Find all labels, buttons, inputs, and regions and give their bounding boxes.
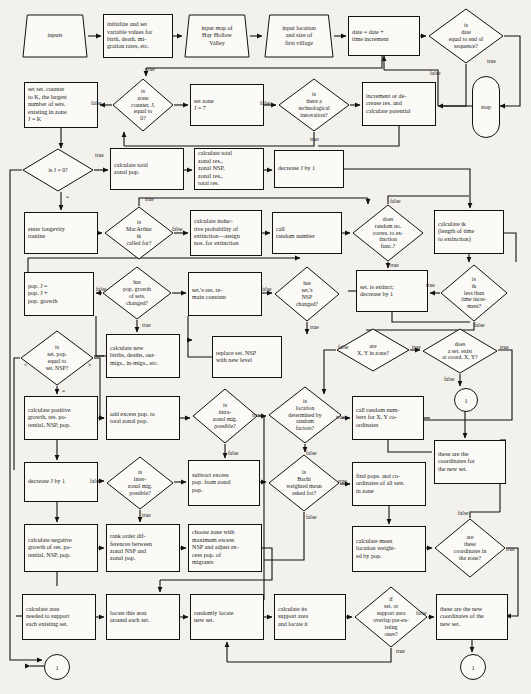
node-calculate-mean-location: calculate mean location weight- ed by po… [352,526,426,572]
node-add-excess-pop: add excess pop. to total zonal pop. [106,396,180,440]
node-initialize-variables-label: initialize and set variable values for b… [104,21,172,51]
node-inductive-probability-extinction: calculate induc- tive probability of ext… [190,210,262,256]
edge-label-true-location-random: true [336,414,345,420]
node-calculate-area-needed-label: calculate area needed to support each ex… [23,606,95,628]
node-input-map: input map of Hay Hollow Valley [184,14,250,58]
decision-location-random-factors-label: is location determined by random factors… [288,398,321,433]
node-add-excess-pop-label: add excess pop. to total zonal pop. [107,411,179,426]
node-stop: stop [472,76,500,138]
node-call-random-numbers-xy-label: call random num- bers for X, Y co- ordin… [353,407,423,429]
decision-zone-counter-zero-label: is zone counter, J, equal to 0? [131,88,155,123]
decision-overlap-pre-existing-label: if set. or support area overlap pre-ex- … [373,596,409,637]
node-pop-growth-sum-label: pop. J = pop. J + pop. growth [25,283,93,305]
connector-1-bottom-left-label: 1 [55,664,58,671]
node-calculate-total-zonal-pop: calculate total zonal pop. [110,148,184,190]
node-input-map-label: input map of Hay Hollow Valley [201,25,232,47]
node-find-pops-coordinates-label: find pops. and co- ordinates of all sets… [353,473,425,495]
edge-label-false-tech-innov: false [260,100,271,106]
edge-label-false-zone-counter: false [91,100,102,106]
node-set-is-extinct: set. is extinct; decrease by 1 [356,270,428,312]
node-decrease-j-by-1-lower-label: decrease J by 1 [25,478,97,485]
decision-random-no-extinction-func: does random no. corres. to ex- tinction … [352,204,424,262]
node-call-random-number-label: call random number [273,226,341,241]
node-locate-area-around-set-label: locate this area around each set. [107,610,179,625]
node-choose-zone-max-excess-label: choose zone with maximum excess NSP and … [189,529,261,566]
edge-label-true-xy-zone: true [412,344,421,350]
node-inductive-probability-extinction-label: calculate induc- tive probability of ext… [191,218,261,248]
decision-j-equals-zero: is J = 0? [22,148,94,192]
node-stop-label: stop [481,104,491,110]
node-subtract-excess-pop-label: subtract excess pop. from zonal pop. [189,472,259,494]
decision-set-pop-equal-nsp-label: is set. pop. equal to set. NSP? [46,344,69,372]
node-call-random-number: call random number [272,212,342,254]
node-increment-decrease-res-label: increment or de- crease res. and calcula… [363,93,435,115]
node-find-pops-coordinates: find pops. and co- ordinates of all sets… [352,462,426,506]
edge-label-eq-j-zero: = [66,194,69,200]
node-set-zone-label: set zone J = 7 [191,98,263,113]
edge-label-lt-set-pop: < [24,362,27,368]
node-these-are-coordinates-new-set: these are the coordinates for the new se… [434,440,506,484]
node-calculate-negative-growth-label: calculate negative growth of res. po- te… [25,537,97,559]
edge-label-true-macarthur: true [145,196,154,202]
node-these-are-coordinates-new-set-label: these are the coordinates for the new se… [435,451,505,473]
node-inputs-label: inputs [48,32,63,39]
edge-label-false-interzonal: false [90,478,101,484]
decision-set-exist-at-coord-label: does a set. exist at coord. X, Y? [442,341,477,362]
edge-label-false-overlap: false [416,610,427,616]
edge-label-gt-set-pop: > [88,362,91,368]
edge-label-false-date-end: false [430,70,441,76]
decision-bachi-weighted-mean: is Bachi weighted mean asked for? [268,454,340,512]
connector-1-bottom-left: 1 [44,654,70,680]
connector-1-right-mid: 1 [454,388,478,412]
node-replace-nsp-new-level: replace set. NSP with new level [212,336,282,378]
edge-label-true-interzonal: true [142,512,151,518]
decision-interzonal-mig-possible: is inter- zonal mig. possible? [106,456,174,510]
decision-xy-in-zone-label: are X, Y in zone? [357,343,389,357]
node-input-location-size: input location and size of first village [264,14,334,58]
decision-coordinates-in-zone: are these coordinates in the zone? [434,518,506,578]
node-these-are-new-coordinates-label: these are the new coordinates of the new… [437,606,507,628]
edge-label-eq-set-pop: = [62,388,65,394]
decision-coordinates-in-zone-label: are these coordinates in the zone? [454,534,487,562]
node-calculate-support-area-label: calculate its support area and locate it [275,606,345,628]
node-randomly-locate-new-set-label: randomly locate new set. [191,610,263,625]
decision-technological-innovation: is there a technological innovation? [278,78,350,132]
decision-zone-counter-zero: is zone counter, J, equal to 0? [112,78,174,132]
node-locate-area-around-set: locate this area around each set. [106,594,180,640]
node-calculate-mean-location-label: calculate mean location weight- ed by po… [353,538,425,560]
decision-tk-less-than-time-increment-label: is tk less than time incre- ment? [461,276,486,311]
node-set-settlement-counter: set set. counter to K, the largest numbe… [24,82,98,128]
node-input-location-size-label: input location and size of first village [282,25,316,47]
edge-label-true-nsp-changed: true [310,324,319,330]
edge-label-false-random-no: false [390,198,401,204]
edge-label-true-overlap: true [396,648,405,654]
node-inputs: inputs [22,14,88,58]
node-replace-nsp-new-level-label: replace set. NSP with new level [213,350,281,365]
decision-pop-growth-changed: has pop. growth of sets. changed? [102,266,172,320]
node-date-increment-label: date = date + time increment [349,29,419,44]
edge-label-false-nsp-changed: false [261,286,272,292]
connector-1-right-mid-label: 1 [464,397,467,404]
edge-label-true-tk-less: true [426,282,435,288]
node-calculate-total-zonal-res-label: calculate total zonal res., zonal NSP, z… [195,150,263,187]
decision-tk-less-than-time-increment: is tk less than time incre- ment? [440,264,508,322]
flowchart-canvas: inputsinitialize and set variable values… [0,0,531,694]
node-calculate-new-births-deaths: calculate new births, deaths, out- migs.… [106,334,180,378]
node-calculate-negative-growth: calculate negative growth of res. po- te… [24,524,98,572]
decision-pop-growth-changed-label: has pop. growth of sets. changed? [123,279,151,307]
node-calculate-total-zonal-pop-label: calculate total zonal pop. [111,162,183,177]
node-increment-decrease-res: increment or de- crease res. and calcula… [362,82,436,126]
node-date-increment: date = date + time increment [348,16,420,56]
node-res-remain-constant-label: set.'s res. re- main constant [189,287,261,302]
decision-set-pop-equal-nsp: is set. pop. equal to set. NSP? [20,330,94,386]
decision-set-exist-at-coord: does a set. exist at coord. X, Y? [422,328,498,374]
decision-set-nsp-changed: has set.'s NSP changed? [274,266,340,322]
node-call-random-numbers-xy: call random num- bers for X, Y co- ordin… [352,396,424,440]
node-choose-zone-max-excess: choose zone with maximum excess NSP and … [188,524,262,572]
decision-date-end-of-sequence: is date equal to end of sequence? [428,8,504,64]
decision-overlap-pre-existing: if set. or support area overlap pre-ex- … [354,586,428,648]
node-decrease-j-by-1-lower: decrease J by 1 [24,462,98,502]
node-set-settlement-counter-label: set set. counter to K, the largest numbe… [25,86,97,123]
edge-label-false-location-random: false [306,450,317,456]
decision-macarthur-tk-label: is MacArthur tk called for? [126,219,152,247]
